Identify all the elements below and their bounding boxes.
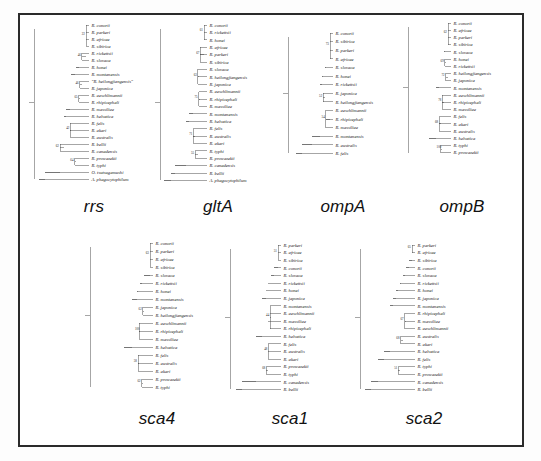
taxon-label: R. helvetica bbox=[417, 349, 440, 354]
taxon-label: R. prowazekii bbox=[283, 364, 310, 369]
taxon-label: R. massiliae bbox=[335, 125, 358, 130]
taxon-label: R. akari bbox=[283, 357, 300, 362]
gene-label-ompB: ompB bbox=[402, 197, 522, 217]
bootstrap-value: 73 bbox=[326, 42, 330, 46]
taxon-label: R. montanensis bbox=[91, 72, 120, 77]
tree-gltA-svg: R. conoriiR. rickettsiiR. honeiR. africa… bbox=[154, 17, 282, 195]
taxon-label: R. helvetica bbox=[283, 334, 306, 339]
taxon-label: R. massiliae bbox=[155, 337, 178, 342]
taxon-label: R. conorii bbox=[155, 241, 175, 246]
taxon-label: R. conorii bbox=[417, 266, 437, 271]
taxon-label: R. aeschlimannii bbox=[417, 326, 450, 331]
taxon-label: R. typhi bbox=[155, 385, 171, 390]
taxon-label: R. rickettsii bbox=[417, 281, 440, 286]
taxon-label: R. felis bbox=[417, 357, 431, 362]
taxon-label: R. australis bbox=[91, 135, 113, 140]
bootstrap-value: 51 bbox=[274, 249, 278, 253]
taxon-label: R. prowazekii bbox=[453, 150, 480, 155]
taxon-label: R. bellii bbox=[417, 387, 433, 392]
taxon-label: R. japonica bbox=[453, 78, 476, 83]
taxon-label: R. japonica bbox=[91, 86, 114, 91]
figure-frame: R. conoriiR. parkeriR. africaeR. sibiric… bbox=[18, 13, 524, 447]
gene-label-sca4: sca4 bbox=[82, 409, 232, 429]
taxon-label: R. japonica bbox=[283, 296, 306, 301]
taxon-label: R. rickettsii bbox=[91, 51, 114, 56]
taxon-label: R. sibirica bbox=[453, 42, 474, 47]
taxon-label: R. helvetica bbox=[209, 119, 232, 124]
bootstrap-value: 65 bbox=[75, 95, 79, 99]
bootstrap-value: 52 bbox=[319, 94, 323, 98]
taxon-label: R. rhipicephali bbox=[283, 326, 312, 331]
bootstrap-value: 64 bbox=[70, 158, 74, 162]
taxon-label: "R. heilongjiangensis" bbox=[92, 79, 133, 84]
bootstrap-value: 68 bbox=[396, 336, 400, 340]
bootstrap-value: 62 bbox=[56, 144, 60, 148]
bootstrap-value: 63 bbox=[146, 251, 150, 255]
taxon-label: R. typhi bbox=[453, 143, 469, 148]
taxon-label: R. akari bbox=[209, 141, 226, 146]
taxon-label: R. akari bbox=[417, 342, 434, 347]
taxon-label: R. honei bbox=[91, 65, 108, 70]
taxon-label: R. australis bbox=[155, 361, 177, 366]
taxon-label: R. parkeri bbox=[155, 249, 175, 254]
taxon-label: R. africae bbox=[417, 250, 436, 255]
taxon-label: R. akari bbox=[453, 122, 470, 127]
taxon-label: R. africae bbox=[209, 45, 228, 50]
bootstrap-value: 54 bbox=[322, 115, 326, 119]
taxon-label: R. massiliae bbox=[453, 107, 476, 112]
taxon-label: R. typhi bbox=[209, 149, 225, 154]
bootstrap-value: 63 bbox=[194, 73, 198, 77]
bootstrap-value: 68 bbox=[435, 120, 439, 124]
taxon-label: R. honei bbox=[155, 289, 172, 294]
taxon-label: R. prowazekii bbox=[91, 156, 118, 161]
taxon-label: R. rickettsii bbox=[155, 281, 178, 286]
taxon-label: R. honei bbox=[283, 288, 300, 293]
tree-sca2-svg: R. parkeriR. africaeR. sibiricaR. conori… bbox=[354, 227, 494, 405]
bootstrap-value: 71 bbox=[189, 132, 193, 136]
taxon-label: R. canadensis bbox=[209, 163, 236, 168]
taxon-label: R. aeschlimannii bbox=[283, 311, 316, 316]
taxon-label: R. parkeri bbox=[453, 35, 473, 40]
taxon-label: R. australis bbox=[209, 134, 231, 139]
bootstrap-value: 67 bbox=[196, 51, 200, 55]
taxon-label: R. helvetica bbox=[91, 114, 114, 119]
taxon-label: R. massiliae bbox=[283, 319, 306, 324]
taxon-label: R. sibirica bbox=[209, 60, 230, 65]
taxon-label: R. parkeri bbox=[209, 52, 229, 57]
taxon-label: R. felis bbox=[283, 342, 297, 347]
taxon-label: R. montanensis bbox=[155, 297, 184, 302]
taxon-label: R. africae bbox=[335, 57, 354, 62]
taxon-label: R. conorii bbox=[335, 31, 355, 36]
taxon-label: R. australis bbox=[283, 349, 305, 354]
taxon-label: R. felis bbox=[91, 121, 105, 126]
taxon-label: R. felis bbox=[453, 114, 467, 119]
taxon-label: R. canadensis bbox=[91, 149, 118, 154]
taxon-label: R. sibirica bbox=[155, 265, 176, 270]
gene-label-sca2: sca2 bbox=[354, 409, 494, 429]
taxon-label: R. felis bbox=[155, 353, 169, 358]
taxon-label: R. canadensis bbox=[283, 380, 310, 385]
taxon-label: R. massiliae bbox=[209, 104, 232, 109]
taxon-label: R. honei bbox=[209, 38, 226, 43]
taxon-label: R. bellii bbox=[209, 171, 225, 176]
gene-label-rrs: rrs bbox=[28, 197, 160, 217]
taxon-label: R. africae bbox=[453, 28, 472, 33]
taxon-label: R. aeschlimannii bbox=[335, 108, 368, 113]
taxon-label: R. honei bbox=[453, 57, 470, 62]
bootstrap-value: 72 bbox=[441, 73, 445, 77]
taxon-label: R. felis bbox=[335, 151, 349, 156]
taxon-label: R. akari bbox=[155, 369, 172, 374]
taxon-label: R. slovaca bbox=[283, 273, 304, 278]
taxon-label: R. heilongjiangensis bbox=[335, 100, 374, 105]
tree-rrs-svg: R. conoriiR. parkeriR. africaeR. sibiric… bbox=[28, 17, 160, 195]
taxon-label: R. rickettsii bbox=[283, 281, 306, 286]
taxon-label: R. slovaca bbox=[91, 58, 112, 63]
tree-panel-gltA: R. conoriiR. rickettsiiR. honeiR. africa… bbox=[154, 17, 282, 195]
tree-panel-sca4: R. conoriiR. parkeriR. africaeR. sibiric… bbox=[82, 227, 232, 405]
taxon-label: R. montanensis bbox=[453, 86, 482, 91]
bootstrap-value: 100 bbox=[437, 145, 442, 149]
taxon-label: R. australis bbox=[453, 129, 475, 134]
taxon-label: R. massiliae bbox=[91, 107, 114, 112]
taxon-label: R. rhipicephali bbox=[91, 100, 120, 105]
tree-ompA-svg: R. conoriiR. sibiricaR. parkeriR. africa… bbox=[282, 17, 404, 195]
